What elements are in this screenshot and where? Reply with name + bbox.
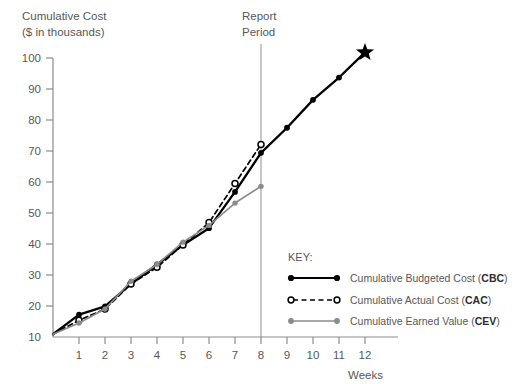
data-point-cev [128,279,133,284]
series-line-cbc [53,52,365,334]
y-tick-label: 100 [22,52,41,64]
data-series-layer [53,43,374,334]
data-point-cev [206,223,211,228]
x-tick-label: 11 [333,349,345,361]
legend-entry-cev: Cumulative Earned Value (CEV) [288,315,500,327]
legend-swatch-dot-cac-start [288,297,294,303]
x-tick-label: 6 [206,349,212,361]
series-cac [53,141,264,334]
legend-swatch-dot-cac-end [334,297,340,303]
data-point-cac [232,181,238,187]
x-tick-label: 8 [258,349,264,361]
x-tick-label: 5 [180,349,186,361]
chart-svg: Cumulative Cost ($ in thousands) Report … [0,0,523,384]
y-tick-label: 20 [28,300,41,312]
x-tick-label: 4 [154,349,161,361]
data-point-cbc [310,97,316,103]
report-period-label-line1: Report [242,10,277,22]
cost-performance-chart: Cumulative Cost ($ in thousands) Report … [0,0,523,384]
series-cev [53,184,264,335]
y-tick-label: 60 [28,176,41,188]
y-tick-label: 80 [28,114,41,126]
x-axis-title: Weeks [348,369,383,381]
y-axis-title-line1: Cumulative Cost [22,10,107,22]
y-axis-title-line2: ($ in thousands) [22,26,105,38]
x-tick-label: 2 [102,349,108,361]
x-tick-label: 7 [232,349,238,361]
data-point-cev [180,239,185,244]
data-point-cbc [258,150,264,156]
y-axis-tick-labels: 100 90 80 70 60 50 40 30 20 10 [22,52,41,343]
y-tick-label: 40 [28,238,41,250]
y-tick-label: 30 [28,269,41,281]
chart-legend: KEY: Cumulative Budgeted Cost (CBC) Cumu… [288,251,508,327]
legend-entry-cac: Cumulative Actual Cost (CAC) [288,294,491,306]
data-point-cev [76,320,81,325]
x-tick-label: 1 [76,349,82,361]
y-axis-ticks [46,58,53,321]
series-line-cac [53,144,261,334]
x-tick-label: 10 [307,349,320,361]
legend-swatch-dot-cev-end [334,318,340,324]
data-point-cev [154,262,159,267]
x-axis-tick-labels: 1 2 3 4 5 6 7 8 9 10 11 12 [76,349,372,361]
y-tick-label: 90 [28,83,41,95]
x-tick-label: 12 [359,349,372,361]
legend-swatch-dot-cev-start [288,318,294,324]
data-point-cev [258,184,263,189]
legend-label-cbc: Cumulative Budgeted Cost (CBC) [350,272,508,284]
y-tick-label: 70 [28,145,41,157]
data-point-cbc [232,189,238,195]
report-period-label-line2: Period [242,26,275,38]
x-axis-ticks [79,337,365,344]
x-tick-label: 3 [128,349,134,361]
legend-label-cev: Cumulative Earned Value (CEV) [350,315,500,327]
data-point-cev [232,200,237,205]
legend-title: KEY: [288,251,312,263]
x-tick-label: 9 [284,349,290,361]
data-point-cac [258,141,264,147]
legend-label-cac: Cumulative Actual Cost (CAC) [350,294,491,306]
y-tick-label: 50 [28,207,41,219]
series-cbc [53,43,374,334]
data-point-cev [102,306,107,311]
legend-swatch-dot-cbc-start [288,275,294,281]
y-tick-label: 10 [28,331,41,343]
data-point-cbc [336,75,342,81]
legend-entry-cbc: Cumulative Budgeted Cost (CBC) [288,272,508,284]
legend-swatch-dot-cbc-end [334,275,340,281]
data-point-cbc [284,125,290,131]
